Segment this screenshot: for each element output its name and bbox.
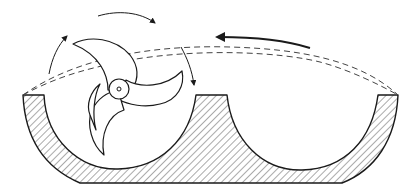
hub-center [117, 87, 121, 91]
rotation-arrow-left [49, 36, 67, 74]
rotation-arrow-top [98, 13, 155, 23]
flow-arrow [219, 37, 310, 48]
impeller [73, 39, 183, 155]
sweep-path-outer [23, 47, 398, 95]
sweep-path-inner [23, 53, 398, 95]
housing [23, 95, 398, 183]
impeller-housing-diagram [0, 0, 418, 193]
